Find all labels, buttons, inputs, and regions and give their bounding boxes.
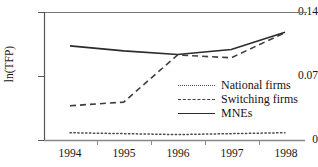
legend-item-switching-firms: Switching firms	[176, 93, 302, 106]
dotted-line-swatch-icon	[176, 80, 216, 92]
dashed-line-swatch-icon	[176, 94, 216, 106]
legend-item-mnes: MNEs	[176, 107, 302, 120]
line-chart-figure: ln(TFP) 0.14 0.07 0 1994 1995 1996 1997 …	[0, 0, 318, 167]
legend-label-national-firms: National firms	[221, 79, 291, 92]
solid-line-swatch-icon	[176, 108, 216, 120]
legend-label-mnes: MNEs	[221, 107, 252, 120]
legend-item-national-firms: National firms	[176, 79, 302, 92]
series-line-mnes	[70, 32, 285, 54]
series-line-national-firms	[70, 133, 285, 135]
legend-label-switching-firms: Switching firms	[221, 93, 298, 106]
chart-legend: National firms Switching firms MNEs	[176, 79, 302, 121]
